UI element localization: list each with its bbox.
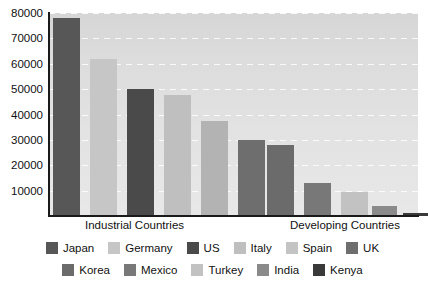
legend-row-1: JapanGermanyUSItalySpainUK (0, 239, 425, 257)
legend-item-germany[interactable]: Germany (108, 242, 172, 255)
legend-swatch-icon (257, 264, 269, 276)
legend-item-japan[interactable]: Japan (46, 242, 94, 255)
legend-item-india[interactable]: India (257, 264, 299, 277)
chart-legend: JapanGermanyUSItalySpainUK KoreaMexicoTu… (0, 239, 425, 299)
y-axis-line (48, 12, 50, 217)
legend-item-kenya[interactable]: Kenya (313, 264, 363, 277)
bar-mexico (304, 183, 331, 216)
y-tick-label: 70000 (11, 32, 43, 44)
legend-item-us[interactable]: US (187, 242, 220, 255)
y-tick-label: 50000 (11, 83, 43, 95)
bar-korea (267, 145, 294, 216)
y-tick-label: 30000 (11, 134, 43, 146)
group-label-industrial: Industrial Countries (85, 219, 184, 231)
legend-row-2: KoreaMexicoTurkeyIndiaKenya (0, 261, 425, 279)
legend-item-korea[interactable]: Korea (62, 264, 110, 277)
legend-swatch-icon (108, 242, 120, 254)
legend-swatch-icon (286, 242, 298, 254)
bar-turkey (341, 192, 368, 216)
legend-swatch-icon (124, 264, 136, 276)
x-axis-line (48, 215, 419, 217)
legend-label: Turkey (208, 264, 243, 277)
y-tick-label: 40000 (11, 109, 43, 121)
bar-us (127, 89, 154, 216)
legend-swatch-icon (346, 242, 358, 254)
y-axis-labels: 8000070000600005000040000300002000010000 (0, 0, 46, 230)
legend-label: India (274, 264, 299, 277)
legend-label: US (204, 242, 220, 255)
legend-item-turkey[interactable]: Turkey (191, 264, 243, 277)
y-tick-label: 10000 (11, 185, 43, 197)
legend-item-italy[interactable]: Italy (234, 242, 272, 255)
legend-swatch-icon (313, 264, 325, 276)
bar-uk (238, 140, 265, 216)
legend-item-uk[interactable]: UK (346, 242, 379, 255)
legend-label: UK (363, 242, 379, 255)
bar-italy (164, 95, 191, 216)
legend-item-spain[interactable]: Spain (286, 242, 332, 255)
legend-label: Italy (251, 242, 272, 255)
y-tick-label: 60000 (11, 58, 43, 70)
legend-label: Japan (63, 242, 94, 255)
legend-swatch-icon (187, 242, 199, 254)
legend-label: Kenya (330, 264, 363, 277)
y-tick-label: 80000 (11, 7, 43, 19)
bar-germany (90, 59, 117, 216)
legend-label: Mexico (141, 264, 177, 277)
plot-area (49, 13, 418, 216)
legend-swatch-icon (191, 264, 203, 276)
legend-item-mexico[interactable]: Mexico (124, 264, 177, 277)
legend-swatch-icon (62, 264, 74, 276)
legend-swatch-icon (46, 242, 58, 254)
y-tick-label: 20000 (11, 159, 43, 171)
group-labels: Industrial Countries Developing Countrie… (0, 219, 425, 235)
legend-label: Korea (79, 264, 110, 277)
legend-swatch-icon (234, 242, 246, 254)
bar-japan (53, 18, 80, 216)
legend-label: Spain (303, 242, 332, 255)
group-label-developing: Developing Countries (290, 219, 400, 231)
legend-label: Germany (125, 242, 172, 255)
bar-spain (201, 121, 228, 216)
bar-series (49, 13, 418, 216)
